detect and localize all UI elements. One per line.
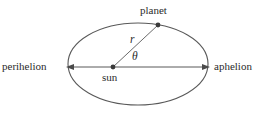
perihelion-label: perihelion xyxy=(2,61,47,72)
planet-label: planet xyxy=(140,5,167,16)
orbit-ellipse xyxy=(68,23,208,105)
orbit-diagram-figure: perihelion aphelion planet sun r θ xyxy=(0,0,272,116)
aphelion-arrowhead xyxy=(202,64,210,70)
perihelion-arrowhead xyxy=(66,64,74,70)
radius-variable-label: r xyxy=(130,34,134,46)
planet-point-marker xyxy=(156,23,161,28)
angle-theta-label: θ xyxy=(132,51,138,63)
sun-label: sun xyxy=(102,72,117,83)
sun-point-marker xyxy=(111,65,116,70)
aphelion-label: aphelion xyxy=(214,61,252,72)
